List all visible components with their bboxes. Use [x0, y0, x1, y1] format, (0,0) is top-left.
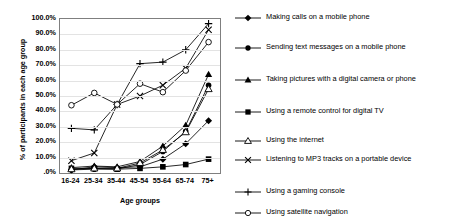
- data-point-cross-x: [160, 82, 166, 88]
- data-point-filled-square: [245, 109, 250, 114]
- legend-item[interactable]: Listening to MP3 tracks on a portable de…: [234, 154, 447, 165]
- series-4: [68, 85, 212, 171]
- data-point-plus: [68, 125, 75, 132]
- gridline: [60, 127, 220, 128]
- y-axis-tick-label: 30.0%: [20, 122, 56, 130]
- data-point-open-circle: [114, 102, 120, 108]
- data-point-filled-square: [160, 164, 166, 170]
- data-point-open-circle: [206, 39, 212, 45]
- y-axis-tick-label: 70.0%: [20, 60, 56, 68]
- x-axis-title: Age groups: [59, 196, 221, 205]
- data-point-open-circle: [245, 210, 250, 215]
- legend-item[interactable]: Using a gaming console: [234, 186, 447, 197]
- data-point-cross-x: [205, 27, 211, 33]
- legend-item[interactable]: Taking pictures with a digital camera or…: [234, 74, 447, 85]
- gridline: [60, 96, 220, 97]
- data-point-open-circle: [69, 102, 75, 108]
- gridline: [60, 50, 220, 51]
- data-point-plus: [136, 60, 143, 67]
- y-axis-tick-label: 60.0%: [20, 76, 56, 84]
- legend-marker-open-triangle: [234, 136, 264, 146]
- chart-legend: Making calls on a mobile phoneSending te…: [234, 8, 447, 216]
- data-point-open-circle: [183, 68, 189, 74]
- legend-label: Using a remote control for digital TV: [264, 106, 384, 115]
- data-point-filled-square: [183, 162, 189, 168]
- data-point-filled-circle: [245, 45, 250, 50]
- gridline: [60, 81, 220, 82]
- legend-label: Using satellite navigation: [264, 207, 348, 216]
- y-axis-tick-label: 10.0%: [20, 153, 56, 161]
- data-point-filled-triangle: [245, 77, 252, 83]
- data-point-open-circle: [91, 90, 97, 96]
- legend-item[interactable]: Using a remote control for digital TV: [234, 106, 447, 117]
- legend-label: Using the internet: [264, 135, 324, 144]
- legend-marker-filled-triangle: [234, 75, 264, 85]
- legend-label: Taking pictures with a digital camera or…: [264, 74, 416, 83]
- legend-marker-filled-square: [234, 107, 264, 117]
- data-point-open-circle: [137, 81, 143, 87]
- data-point-open-triangle: [245, 138, 252, 144]
- legend-label: Listening to MP3 tracks on a portable de…: [264, 154, 411, 163]
- y-axis-tick-label: 40.0%: [20, 106, 56, 114]
- legend-marker-plus: [234, 187, 264, 197]
- gridline: [60, 34, 220, 35]
- x-axis-tick-label: 75+: [188, 176, 228, 185]
- legend-item[interactable]: Using the internet: [234, 135, 447, 146]
- chart-container: % of participants in each age group 100.…: [0, 0, 449, 223]
- plot-area: [59, 18, 221, 174]
- legend-label: Using a gaming console: [264, 186, 345, 195]
- gridline: [60, 111, 220, 112]
- data-point-plus: [244, 188, 251, 195]
- y-axis-tick-labels: 100.0%90.0%80.0%70.0%60.0%50.0%40.0%30.0…: [20, 0, 56, 223]
- legend-marker-open-circle: [234, 208, 264, 218]
- y-axis-tick-label: 90.0%: [20, 29, 56, 37]
- legend-marker-filled-diamond: [234, 13, 264, 23]
- legend-label: Making calls on a mobile phone: [264, 12, 370, 21]
- series-line: [71, 24, 208, 130]
- legend-label: Sending text messages on a mobile phone: [264, 42, 406, 51]
- series-6: [68, 20, 213, 134]
- y-axis-tick-label: 80.0%: [20, 45, 56, 53]
- data-point-filled-triangle: [205, 71, 212, 77]
- data-point-filled-square: [137, 166, 143, 172]
- legend-item[interactable]: Making calls on a mobile phone: [234, 12, 447, 23]
- gridline: [60, 65, 220, 66]
- gridline: [60, 142, 220, 143]
- x-axis-tick-labels: 16-2425-3435-4445-5455-6465-7475+: [59, 176, 221, 190]
- gridline: [60, 158, 220, 159]
- data-point-filled-diamond: [245, 15, 252, 22]
- y-axis-tick-label: 50.0%: [20, 91, 56, 99]
- legend-item[interactable]: Using satellite navigation: [234, 207, 447, 218]
- legend-marker-cross-x: [234, 155, 264, 165]
- data-point-cross-x: [91, 150, 97, 156]
- legend-item[interactable]: Sending text messages on a mobile phone: [234, 42, 447, 53]
- data-point-open-circle: [160, 89, 166, 95]
- y-axis-tick-label: .0%: [20, 168, 56, 176]
- y-axis-tick-label: 100.0%: [20, 14, 56, 22]
- y-axis-tick-label: 20.0%: [20, 137, 56, 145]
- legend-marker-filled-circle: [234, 43, 264, 53]
